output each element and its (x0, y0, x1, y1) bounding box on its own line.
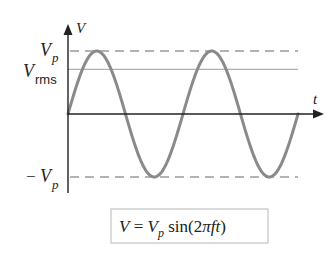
formula-vp-sub: p (157, 226, 164, 240)
time-axis-label: t (313, 91, 318, 107)
formula-open: (2 (188, 217, 202, 236)
formula-equals: = (129, 217, 147, 236)
formula-sin: sin (164, 217, 189, 236)
negative-peak-label: − V p (26, 166, 59, 192)
time-axis-arrow-icon (313, 110, 324, 119)
voltage-axis-label: V (76, 20, 87, 36)
peak-label: V p (40, 40, 59, 65)
formula-close: ) (220, 217, 226, 236)
sine-wave-diagram: V t V p V rms − V p V = Vp sin(2πft) (0, 0, 335, 265)
neg-peak-label-prefix: − (26, 167, 36, 186)
voltage-axis-arrow-icon (64, 24, 73, 35)
rms-label-sub: rms (35, 72, 57, 87)
peak-label-sub: p (51, 50, 59, 65)
neg-peak-label-sub: p (51, 177, 59, 192)
